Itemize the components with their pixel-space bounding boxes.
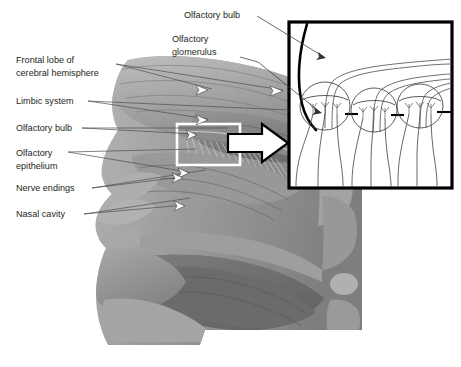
olfactory-bulb-inset-panel (289, 22, 452, 188)
inset-frame-border (289, 22, 452, 188)
label-frontal-lobe-line2: cerebral hemisphere (16, 68, 99, 78)
label-nasal-cavity: Nasal cavity (16, 209, 65, 219)
olfactory-diagram-figure: Frontal lobe of cerebral hemisphere Limb… (0, 0, 461, 367)
label-olfactory-epithelium-line1: Olfactory (16, 148, 53, 158)
label-nerve-endings: Nerve endings (16, 183, 75, 193)
label-limbic-system: Limbic system (16, 96, 74, 106)
diagram-canvas: Frontal lobe of cerebral hemisphere Limb… (0, 0, 461, 367)
label-inset-glomerulus-line1: Olfactory (172, 34, 209, 44)
label-olfactory-bulb: Olfactory bulb (16, 123, 72, 133)
label-frontal-lobe-line1: Frontal lobe of (16, 55, 75, 65)
label-olfactory-epithelium-line2: epithelium (16, 161, 57, 171)
label-inset-glomerulus-line2: glomerulus (172, 47, 217, 57)
label-inset-olfactory-bulb: Olfactory bulb (184, 10, 240, 20)
